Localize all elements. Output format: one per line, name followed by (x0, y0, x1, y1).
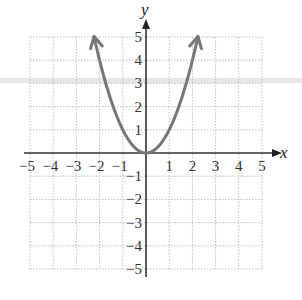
y-tick-label: −5 (126, 261, 142, 277)
y-tick-label: −3 (126, 215, 142, 231)
coordinate-plane: −5−4−3−2−11234554321−1−2−3−4−5 x y (0, 0, 302, 300)
y-tick-label: −1 (126, 168, 142, 184)
x-tick-label: −4 (42, 158, 58, 174)
x-tick-label: 1 (165, 158, 173, 174)
y-tick-label: 1 (135, 122, 143, 138)
x-tick-label: 2 (189, 158, 197, 174)
y-tick-label: −4 (126, 238, 142, 254)
y-tick-label: 3 (135, 75, 143, 91)
y-tick-label: 5 (135, 29, 143, 45)
y-tick-label: 2 (135, 99, 143, 115)
y-axis-label: y (139, 0, 149, 19)
x-tick-label: 3 (212, 158, 220, 174)
x-tick-label: −2 (89, 158, 105, 174)
x-tick-label: 5 (258, 158, 266, 174)
y-tick-label: −2 (126, 191, 142, 207)
axes (24, 19, 282, 277)
x-tick-label: −5 (19, 158, 35, 174)
y-tick-label: 4 (135, 52, 143, 68)
x-tick-label: 4 (235, 158, 243, 174)
x-tick-label: −3 (65, 158, 81, 174)
x-axis-label: x (279, 143, 288, 162)
